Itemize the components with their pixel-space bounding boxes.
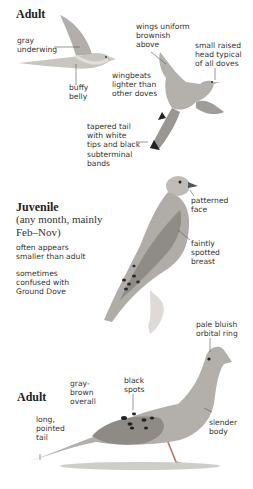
field-guide-page: Adult gray underwing buffy belly wings u… [0, 0, 253, 489]
label-patterned-face: patterned face [191, 196, 228, 214]
juvenile-season-note: (any month, mainly Feb–Nov) [16, 213, 102, 239]
label-black-spots: black spots [124, 376, 144, 394]
label-gray-brown-overall: gray- brown overall [70, 379, 96, 407]
section-heading-adult-flight: Adult [16, 7, 45, 22]
label-buffy-belly: buffy belly [69, 83, 88, 101]
label-faintly-spotted-breast: faintly spotted breast [191, 239, 220, 267]
label-long-pointed-tail: long, pointed tail [36, 415, 65, 443]
section-heading-adult-standing: Adult [17, 390, 46, 405]
label-wings-uniform: wings uniform brownish above [136, 22, 190, 50]
label-pale-bluish-orbital-ring: pale bluish orbital ring [196, 320, 238, 338]
adult-dove-standing-illustration [28, 347, 232, 470]
label-gray-underwing: gray underwing [17, 36, 57, 54]
note-appears-smaller: often appears smaller than adult [16, 243, 85, 261]
label-tapered-tail: tapered tail with white tips and black s… [87, 122, 140, 168]
juvenile-dove-illustration [104, 176, 198, 334]
label-slender-body: slender body [209, 418, 237, 436]
note-confused-ground-dove: sometimes confused with Ground Dove [16, 269, 69, 297]
label-wingbeats: wingbeats lighter than other doves [112, 71, 157, 99]
label-small-raised-head: small raised head typical of all doves [195, 41, 242, 69]
